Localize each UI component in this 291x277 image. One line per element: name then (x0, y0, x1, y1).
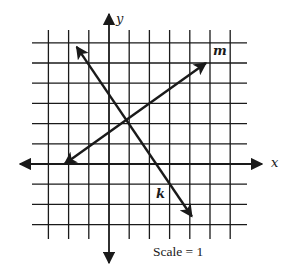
line-m (65, 63, 206, 164)
grid-lines (32, 30, 247, 239)
coordinate-plane-svg: x y m k (0, 0, 291, 277)
x-axis-label: x (271, 155, 279, 170)
line-k (77, 47, 192, 217)
y-axis-label: y (115, 11, 124, 26)
scale-caption: Scale = 1 (153, 244, 203, 260)
coordinate-plane-diagram: x y m k Scale = 1 (0, 0, 291, 277)
line-k-label: k (156, 186, 165, 201)
line-m-label: m (213, 43, 227, 58)
plotted-lines (65, 47, 206, 217)
